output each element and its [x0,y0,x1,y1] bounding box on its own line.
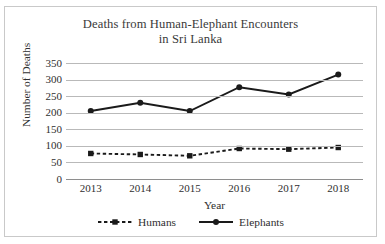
x-tick-label-2014: 2014 [118,182,162,194]
legend-item-elephants[interactable]: Elephants [198,216,284,228]
x-tick-label-2013: 2013 [69,182,113,194]
data-point-elephants-2016[interactable] [236,84,242,90]
x-axis-title: Year [66,199,363,211]
gridline-200 [66,113,363,114]
gridline-150 [66,129,363,130]
data-point-humans-2014[interactable] [138,152,143,157]
x-tick-label-2016: 2016 [217,182,261,194]
legend-label-humans: Humans [138,216,176,228]
data-point-elephants-2018[interactable] [335,72,341,78]
legend-swatch-humans-icon [97,217,133,227]
y-tick-label-350: 350 [28,58,62,69]
data-point-humans-2015[interactable] [187,153,192,158]
y-tick-label-200: 200 [28,107,62,118]
y-tick-label-0: 0 [28,174,62,185]
plot-area [66,63,363,179]
gridline-50 [66,162,363,163]
x-axis-tick-labels: 201320142015201620172018 [66,182,363,196]
data-point-elephants-2014[interactable] [137,100,143,106]
x-tick-label-2017: 2017 [267,182,311,194]
legend-swatch-elephants-icon [198,217,234,227]
gridline-300 [66,80,363,81]
legend-label-elephants: Elephants [239,216,284,228]
chart-frame: Deaths from Human-Elephant Encounters in… [4,6,377,237]
y-tick-label-300: 300 [28,74,62,85]
y-axis-tick-labels: 350300250200150100500 [24,63,62,179]
legend-item-humans[interactable]: Humans [97,216,176,228]
chart-legend: HumansElephants [5,216,376,228]
gridline-0 [66,179,363,180]
data-point-humans-2013[interactable] [88,151,93,156]
chart-title-line-2: in Sri Lanka [5,32,376,47]
gridline-100 [66,146,363,147]
y-tick-label-250: 250 [28,91,62,102]
data-point-humans-2017[interactable] [286,146,291,151]
gridline-350 [66,63,363,64]
x-tick-label-2015: 2015 [168,182,212,194]
chart-title: Deaths from Human-Elephant Encounters in… [5,17,376,47]
gridline-250 [66,96,363,97]
y-tick-label-150: 150 [28,124,62,135]
x-tick-label-2018: 2018 [316,182,360,194]
y-tick-label-100: 100 [28,140,62,151]
series-line-humans [91,148,339,156]
chart-title-line-1: Deaths from Human-Elephant Encounters [5,17,376,32]
y-tick-label-50: 50 [28,157,62,168]
